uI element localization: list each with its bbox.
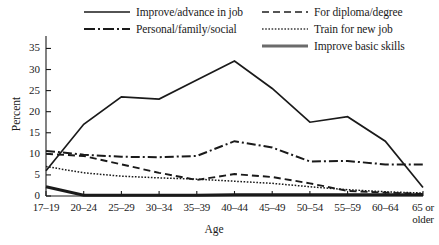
y-tick-label: 10	[18, 147, 40, 159]
y-tick-label: 30	[18, 63, 40, 75]
y-axis-title: Percent	[10, 84, 22, 144]
series-line-for-diploma-degree	[46, 154, 423, 194]
series-line-train-for-new-job	[46, 166, 423, 193]
y-tick-label: 0	[18, 189, 40, 201]
axes	[46, 36, 423, 196]
x-tick-label: 65 orolder	[400, 201, 439, 225]
x-axis-title: Age	[0, 223, 428, 235]
data-series	[46, 61, 423, 195]
series-line-improve-advance-in-job	[46, 61, 423, 187]
y-tick-label: 35	[18, 41, 40, 53]
y-tick-label: 5	[18, 168, 40, 180]
